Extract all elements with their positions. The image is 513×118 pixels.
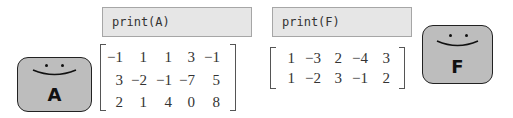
matrix-cell: 3 xyxy=(169,46,195,68)
matrix-cell: 5 xyxy=(194,69,220,91)
matrix-cell: −7 xyxy=(169,69,195,91)
face-a: A xyxy=(17,57,92,112)
matrix-cell: 2 xyxy=(316,47,342,69)
eye-icon xyxy=(465,34,468,37)
eye-icon xyxy=(45,64,48,67)
matrix-cell: 0 xyxy=(169,91,195,113)
smile-icon xyxy=(435,39,480,49)
eye-icon xyxy=(449,34,452,37)
matrix-f: 1 −3 2 −4 3 1 −2 3 −1 2 xyxy=(270,47,405,89)
matrix-row: −1 1 1 3 −1 xyxy=(100,46,236,68)
matrix-cell: −1 xyxy=(194,46,220,68)
code-print-a: print(A) xyxy=(102,7,252,37)
matrix-cell: 3 xyxy=(97,69,123,91)
matrix-cell: 1 xyxy=(121,46,147,68)
matrix-cell: 2 xyxy=(97,91,123,113)
smile-icon xyxy=(31,68,78,78)
matrix-a: −1 1 1 3 −1 3 −2 −1 −7 5 2 1 4 0 8 xyxy=(100,44,236,111)
matrix-cell: 1 xyxy=(269,47,295,69)
face-label: F xyxy=(423,56,492,77)
matrix-cell: 3 xyxy=(364,47,390,69)
matrix-cell: 3 xyxy=(316,67,342,89)
matrix-cell: 1 xyxy=(269,67,295,89)
matrix-row: 1 −3 2 −4 3 xyxy=(270,47,405,69)
matrix-cell: −1 xyxy=(97,46,123,68)
matrix-cell: 8 xyxy=(194,91,220,113)
eye-icon xyxy=(61,64,64,67)
code-print-f: print(F) xyxy=(272,7,412,37)
face-label: A xyxy=(18,84,91,105)
face-f: F xyxy=(422,25,493,84)
matrix-cell: 1 xyxy=(121,91,147,113)
matrix-row: 1 −2 3 −1 2 xyxy=(270,67,405,89)
matrix-cell: −2 xyxy=(121,69,147,91)
matrix-row: 3 −2 −1 −7 5 xyxy=(100,69,236,91)
matrix-cell: 2 xyxy=(364,67,390,89)
matrix-row: 2 1 4 0 8 xyxy=(100,91,236,113)
